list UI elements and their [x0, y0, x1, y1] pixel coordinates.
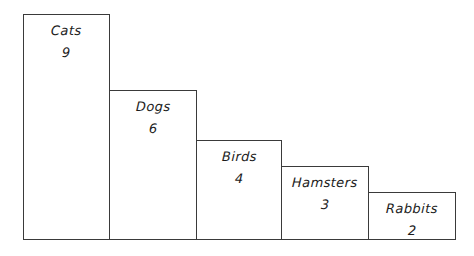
bar-value: 6 [148, 120, 157, 137]
bar-value: 2 [407, 222, 416, 239]
bar-value: 9 [62, 44, 71, 61]
bar-rabbits: Rabbits 2 [368, 192, 456, 240]
bar-hamsters: Hamsters 3 [281, 166, 369, 240]
bar-label: Birds [221, 148, 256, 165]
bar-birds: Birds 4 [196, 140, 282, 240]
bar-value: 4 [234, 170, 243, 187]
bar-label: Dogs [135, 98, 170, 115]
bar-chart: Cats 9 Dogs 6 Birds 4 Hamsters 3 Rabbits… [0, 0, 474, 256]
bar-cats: Cats 9 [23, 14, 110, 240]
bar-value: 3 [320, 196, 329, 213]
bar-label: Rabbits [386, 200, 438, 217]
bars-layer: Cats 9 Dogs 6 Birds 4 Hamsters 3 Rabbits… [0, 0, 474, 256]
bar-label: Cats [51, 22, 82, 39]
bar-dogs: Dogs 6 [109, 90, 197, 240]
bar-label: Hamsters [292, 174, 358, 191]
